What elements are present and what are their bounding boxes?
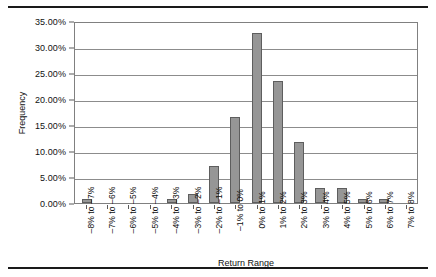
- y-axis-tick-label: 30.00%: [35, 43, 66, 53]
- x-axis-tick: 6% to 7%: [374, 205, 395, 259]
- y-axis-tick-label: 20.00%: [35, 95, 66, 105]
- x-axis-tick-label: –8% to –7%: [86, 187, 96, 234]
- plot-area: [74, 22, 418, 204]
- bar-slot: [289, 23, 310, 203]
- chart-figure: Frequency 35.00%30.00%25.00%20.00%15.00%…: [0, 0, 436, 277]
- x-axis-tick: –7% to –6%: [96, 205, 117, 259]
- bar-slot: [246, 23, 267, 203]
- x-axis-tick-label: 6% to 7%: [385, 191, 395, 228]
- x-axis-tick-label: –1% to 0%: [235, 189, 245, 231]
- y-axis-ticks: 35.00%30.00%25.00%20.00%15.00%10.00%5.00…: [0, 22, 74, 204]
- y-axis-tick-label: 5.00%: [40, 173, 66, 183]
- x-axis-tick-label: –5% to –4%: [150, 187, 160, 234]
- bar-slot: [119, 23, 140, 203]
- bar-slot: [225, 23, 246, 203]
- x-axis-tick: –6% to –5%: [118, 205, 139, 259]
- bar-slot: [76, 23, 97, 203]
- x-axis-tick-label: 1% to 2%: [278, 191, 288, 228]
- x-axis-tick-label: –2% to –1%: [214, 187, 224, 234]
- x-axis-tick: –5% to –4%: [139, 205, 160, 259]
- bar-slot: [204, 23, 225, 203]
- x-axis-tick-label: –7% to –6%: [107, 187, 117, 234]
- x-axis-tick: –3% to –2%: [182, 205, 203, 259]
- x-axis-tick-label: 2% to 3%: [299, 191, 309, 228]
- bar-slot: [97, 23, 118, 203]
- bar-slot: [310, 23, 331, 203]
- x-axis-tick-label: 3% to 4%: [321, 191, 331, 228]
- x-axis-title: Return Range: [74, 258, 418, 268]
- x-axis-tick-label: –3% to –2%: [193, 187, 203, 234]
- x-axis-tick: –1% to 0%: [225, 205, 246, 259]
- x-axis-tick-label: 5% to 6%: [364, 191, 374, 228]
- y-axis-tick-label: 35.00%: [35, 17, 66, 27]
- bar-slot: [352, 23, 373, 203]
- x-axis-ticks: –8% to –7%–7% to –6%–6% to –5%–5% to –4%…: [74, 205, 418, 259]
- bar-slot: [267, 23, 288, 203]
- top-divider-rule: [8, 6, 428, 8]
- bar-slot: [140, 23, 161, 203]
- y-axis-tick-label: 15.00%: [35, 121, 66, 131]
- x-axis-tick: –2% to –1%: [203, 205, 224, 259]
- x-axis-tick: 5% to 6%: [353, 205, 374, 259]
- bar-slot: [395, 23, 416, 203]
- y-axis-tick-label: 10.00%: [35, 147, 66, 157]
- bar-slot: [182, 23, 203, 203]
- x-axis-tick-label: 0% to 1%: [257, 191, 267, 228]
- x-axis-tick: –8% to –7%: [75, 205, 96, 259]
- bar: [252, 33, 262, 203]
- x-axis-tick-label: –4% to –3%: [171, 187, 181, 234]
- y-axis-tick-label: 0.00%: [40, 199, 66, 209]
- x-axis-tick: –4% to –3%: [161, 205, 182, 259]
- x-axis-tick: 7% to 8%: [396, 205, 417, 259]
- x-axis-tick-label: 4% to 5%: [342, 191, 352, 228]
- bar-slot: [374, 23, 395, 203]
- bar-slot: [331, 23, 352, 203]
- x-axis-tick: 2% to 3%: [289, 205, 310, 259]
- x-axis-tick-label: –6% to –5%: [128, 187, 138, 234]
- x-axis-tick-label: 7% to 8%: [406, 191, 416, 228]
- x-axis-tick: 1% to 2%: [267, 205, 288, 259]
- bar-slot: [161, 23, 182, 203]
- y-axis-tick-label: 25.00%: [35, 69, 66, 79]
- x-axis-tick: 4% to 5%: [332, 205, 353, 259]
- bar: [273, 81, 283, 203]
- bar-series: [75, 23, 417, 203]
- x-axis-tick: 0% to 1%: [246, 205, 267, 259]
- x-axis-tick: 3% to 4%: [310, 205, 331, 259]
